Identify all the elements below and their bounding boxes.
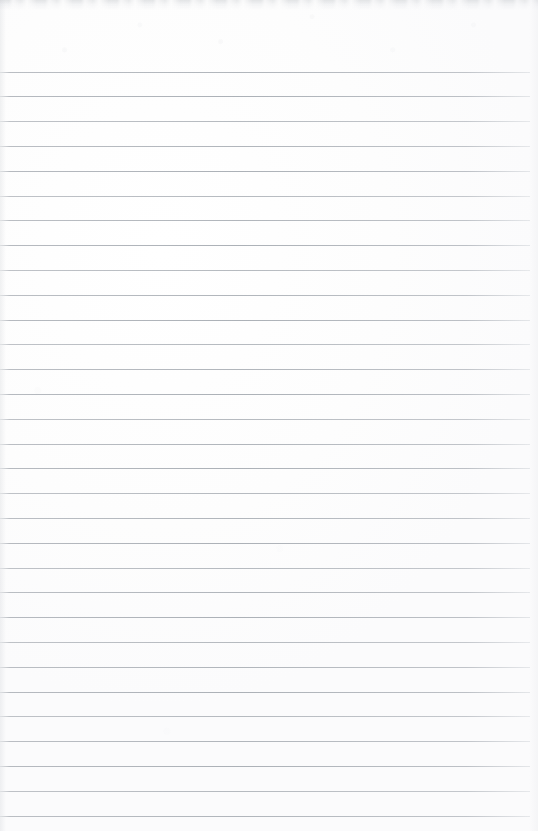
rule-line <box>0 369 530 370</box>
rule-line <box>0 667 530 668</box>
rule-line <box>0 394 530 395</box>
notepad-page <box>0 0 538 831</box>
rule-line <box>0 518 530 519</box>
rule-line <box>0 72 530 73</box>
rule-line <box>0 171 530 172</box>
rule-line <box>0 716 530 717</box>
rule-line <box>0 344 530 345</box>
rule-line <box>0 96 530 97</box>
rule-line <box>0 121 530 122</box>
rule-line <box>0 419 530 420</box>
rule-line <box>0 146 530 147</box>
rule-line <box>0 592 530 593</box>
rule-line <box>0 791 530 792</box>
rule-line <box>0 816 530 817</box>
rule-line <box>0 493 530 494</box>
rule-line <box>0 568 530 569</box>
rule-line <box>0 295 530 296</box>
rule-line <box>0 220 530 221</box>
rule-line <box>0 468 530 469</box>
rule-line <box>0 245 530 246</box>
rule-line <box>0 270 530 271</box>
rule-line <box>0 766 530 767</box>
rule-line <box>0 741 530 742</box>
rule-line <box>0 642 530 643</box>
rule-line <box>0 444 530 445</box>
rule-line <box>0 543 530 544</box>
rule-line <box>0 320 530 321</box>
ruled-lines-layer <box>0 0 538 831</box>
rule-line <box>0 692 530 693</box>
rule-line <box>0 196 530 197</box>
rule-line <box>0 617 530 618</box>
